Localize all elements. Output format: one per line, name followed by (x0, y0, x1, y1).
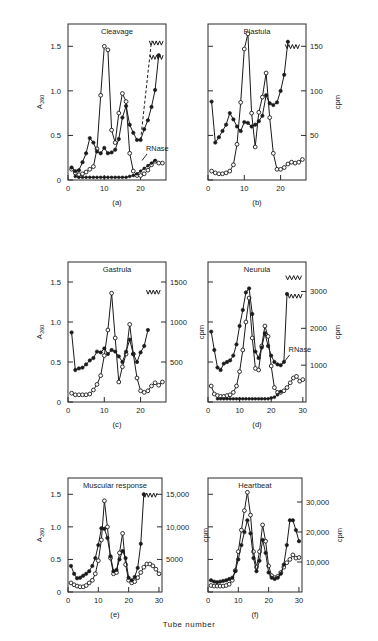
data-point (222, 362, 225, 365)
data-point (136, 172, 139, 175)
data-point (282, 166, 286, 170)
data-point (142, 172, 146, 176)
data-point (246, 519, 249, 522)
data-point (99, 374, 103, 378)
data-point (132, 131, 135, 134)
chart-panel-b: Blastula5010015001020cpm(b) (194, 14, 346, 210)
data-point (117, 355, 120, 358)
y2-tick-label: 10,000 (306, 558, 329, 567)
data-point (99, 176, 102, 179)
data-point (214, 141, 217, 144)
data-point (237, 558, 240, 561)
x-tick-label: 10 (240, 184, 248, 193)
data-point (135, 376, 139, 380)
data-point (294, 528, 297, 531)
series-line-a260 (212, 34, 303, 174)
x-tick-label: 0 (66, 596, 70, 605)
offscale-zigzag-marker (146, 290, 160, 294)
data-point (219, 397, 222, 400)
data-point (251, 397, 254, 400)
data-point (261, 114, 264, 117)
data-point (219, 368, 222, 371)
data-point (117, 176, 120, 179)
data-point (103, 347, 106, 350)
y-tick-label: 0 (57, 588, 61, 597)
data-point (297, 160, 301, 164)
data-point (235, 125, 238, 128)
data-point (247, 287, 250, 290)
y-tick-label: 1.5 (50, 278, 61, 287)
svg-text:A260: A260 (35, 95, 45, 110)
data-point (264, 397, 267, 400)
data-point (124, 104, 127, 107)
data-point (153, 381, 157, 385)
data-point (269, 364, 273, 368)
data-point (271, 151, 275, 155)
data-point (91, 564, 94, 567)
y2-tick-label: 100 (310, 87, 323, 96)
y2-tick-label: 150 (310, 42, 323, 51)
data-point (275, 101, 278, 104)
data-point (210, 100, 213, 103)
data-point (70, 331, 73, 334)
data-point (110, 348, 113, 351)
data-point (78, 176, 81, 179)
data-point (88, 136, 91, 139)
data-point (276, 576, 279, 579)
x-tick-label: 10 (234, 596, 242, 605)
data-point (253, 145, 257, 149)
offscale-zigzag-marker (288, 294, 303, 298)
data-point (109, 555, 112, 558)
data-point (243, 509, 247, 513)
x-tick-label: 0 (66, 184, 70, 193)
data-point (246, 32, 250, 36)
data-point (244, 320, 248, 324)
data-point (143, 167, 146, 170)
data-point (161, 380, 165, 384)
data-point (235, 343, 238, 346)
panel-title: Cleavage (101, 27, 133, 36)
data-point (94, 556, 97, 559)
data-point (232, 163, 236, 167)
data-point (257, 110, 261, 114)
data-point (84, 363, 87, 366)
x-tick-label: 20 (276, 184, 284, 193)
data-point (133, 575, 136, 578)
data-point (128, 123, 131, 126)
y-tick-label: 1.5 (50, 42, 61, 51)
data-point (232, 354, 235, 357)
data-point (114, 350, 117, 353)
x-tick-label: 20 (136, 406, 144, 415)
data-point (99, 93, 103, 97)
data-point (291, 553, 295, 557)
data-point (115, 568, 118, 571)
y2-tick-label: 30,000 (306, 498, 329, 507)
data-point (121, 116, 124, 119)
y-tick-label: 0.5 (50, 555, 61, 564)
data-point (100, 538, 104, 542)
svg-text:cpm: cpm (333, 325, 342, 339)
data-point (244, 291, 247, 294)
x-tick-label: 20 (264, 596, 272, 605)
data-point (154, 567, 158, 571)
x-tick-label: 20 (136, 184, 144, 193)
data-point (102, 44, 106, 48)
data-point (142, 391, 146, 395)
data-point (124, 556, 127, 559)
data-point (150, 162, 153, 165)
data-point (254, 397, 257, 400)
data-point (95, 150, 98, 153)
data-point (69, 564, 72, 567)
data-point (231, 391, 235, 395)
x-tick-label: 0 (206, 596, 210, 605)
data-point (291, 519, 294, 522)
y2-tick-label: 50 (310, 131, 318, 140)
data-point (242, 47, 246, 51)
data-point (143, 344, 146, 347)
panel-title: Neurula (244, 265, 271, 274)
data-point (128, 175, 131, 178)
data-point (128, 323, 132, 327)
data-point (114, 176, 117, 179)
data-point (282, 389, 286, 393)
data-point (245, 397, 248, 400)
